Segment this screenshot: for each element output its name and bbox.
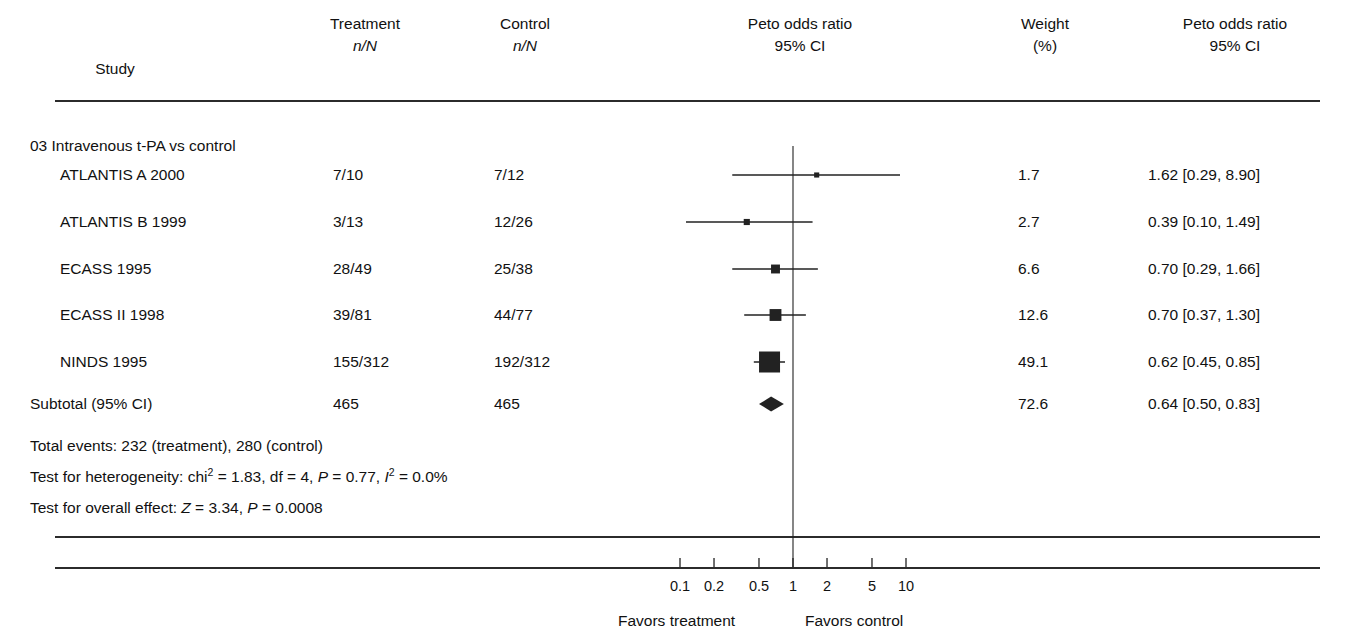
effect-value: 0.70 [0.29, 1.66] [1148,260,1260,278]
effect-marker-square [770,309,782,321]
column-header-treatment: Treatment n/N [290,13,440,58]
forest-row-marker [686,219,813,225]
overall-effect-note: Test for overall effect: Z = 3.34, P = 0… [30,499,323,517]
weight-value: 6.6 [1018,260,1040,278]
overall-z-symbol: Z [181,499,190,516]
group-label: 03 Intravenous t-PA vs control [30,137,236,155]
axis-tick-label: 10 [876,578,936,594]
treatment-count: 3/13 [333,213,363,231]
favors-control-label: Favors control [805,612,903,630]
axis-rule [55,567,1320,569]
forest-row-marker [754,352,785,373]
header-rule [55,100,1320,102]
overall-p-symbol: P [247,499,257,516]
forest-plot-figure: Study Treatment n/N Control n/N Peto odd… [0,0,1350,640]
subtotal-label: Subtotal (95% CI) [30,395,152,413]
effect-marker-square [814,172,819,177]
study-name: NINDS 1995 [60,353,147,371]
subtotal-diamond [759,397,784,412]
subtotal-treatment-count: 465 [333,395,359,413]
het-pre: Test for heterogeneity: chi [30,468,208,485]
subtotal-effect-value: 0.64 [0.50, 0.83] [1148,395,1260,413]
column-header-control: Control n/N [450,13,600,58]
effect-marker-square [759,352,780,373]
subtotal-control-count: 465 [494,395,520,413]
subtotal-weight-value: 72.6 [1018,395,1048,413]
forest-row-marker [744,309,806,321]
body-bottom-rule [55,536,1320,538]
column-header-weight: Weight (%) [970,13,1120,58]
treatment-count: 28/49 [333,260,372,278]
total-events-note: Total events: 232 (treatment), 280 (cont… [30,437,323,455]
treatment-count: 155/312 [333,353,389,371]
het-mid: = 1.83, df = 4, [213,468,317,485]
effect-value: 1.62 [0.29, 8.90] [1148,166,1260,184]
forest-row-marker [732,265,818,274]
study-name: ATLANTIS B 1999 [60,213,186,231]
column-header-effect: Peto odds ratio 95% CI [1140,13,1330,58]
weight-value: 49.1 [1018,353,1048,371]
study-name: ECASS 1995 [60,260,151,278]
het-ival: = 0.0% [395,468,448,485]
overall-pval: = 0.0008 [258,499,323,516]
heterogeneity-note: Test for heterogeneity: chi2 = 1.83, df … [30,468,448,486]
het-pval: = 0.77, [328,468,384,485]
study-name: ATLANTIS A 2000 [60,166,185,184]
weight-value: 1.7 [1018,166,1040,184]
effect-value: 0.70 [0.37, 1.30] [1148,306,1260,324]
weight-value: 2.7 [1018,213,1040,231]
study-name: ECASS II 1998 [60,306,164,324]
treatment-count: 39/81 [333,306,372,324]
control-count: 44/77 [494,306,533,324]
effect-marker-square [771,265,780,274]
het-p-symbol: P [318,468,328,485]
overall-zval: = 3.34, [191,499,247,516]
favors-treatment-label: Favors treatment [618,612,735,630]
column-header-plot: Peto odds ratio 95% CI [685,13,915,58]
effect-value: 0.39 [0.10, 1.49] [1148,213,1260,231]
forest-row-marker [732,172,900,177]
control-count: 192/312 [494,353,550,371]
effect-marker-square [744,219,750,225]
column-header-study: Study [40,58,190,80]
effect-value: 0.62 [0.45, 0.85] [1148,353,1260,371]
control-count: 25/38 [494,260,533,278]
treatment-count: 7/10 [333,166,363,184]
weight-value: 12.6 [1018,306,1048,324]
control-count: 12/26 [494,213,533,231]
control-count: 7/12 [494,166,524,184]
overall-pre: Test for overall effect: [30,499,181,516]
